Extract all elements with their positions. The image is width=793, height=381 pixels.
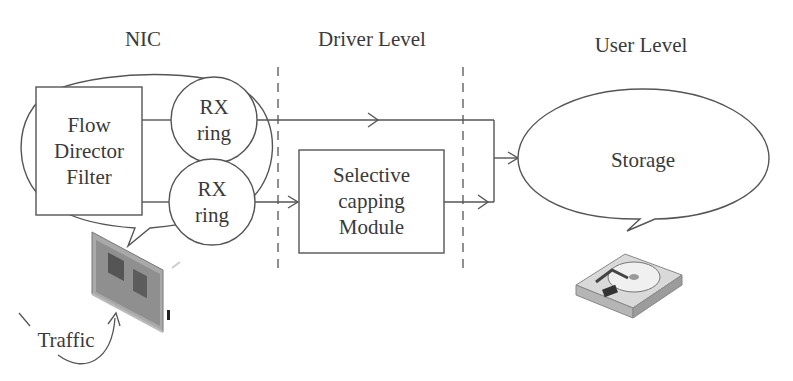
network-card-icon	[92, 232, 180, 332]
rx-ring-1-label: RX ring	[174, 94, 254, 146]
hard-drive-icon	[576, 254, 682, 318]
storage-label: Storage	[583, 147, 703, 173]
nic-heading: NIC	[103, 26, 183, 52]
traffic-tick	[19, 313, 30, 326]
user-level-heading: User Level	[571, 32, 711, 58]
flow-director-label: Flow Director Filter	[36, 112, 142, 190]
rx-ring-2-label: RX ring	[172, 176, 252, 228]
driver-level-heading: Driver Level	[302, 26, 442, 52]
traffic-label: Traffic	[26, 327, 106, 353]
selective-capping-label: Selective capping Module	[299, 162, 444, 240]
